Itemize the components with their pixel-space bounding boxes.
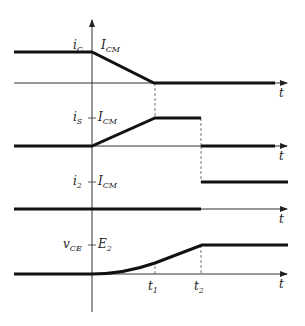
svg-text:ICM: ICM [97,174,118,190]
svg-text:iC: iC [73,38,83,54]
plot-ic: iC ICM t [14,38,287,100]
svg-text:iS: iS [73,110,83,126]
t2-label: t2 [194,279,204,295]
svg-text:E2: E2 [97,237,112,253]
svg-text:t: t [279,149,284,163]
svg-text:vCE: vCE [63,237,82,253]
svg-text:i2: i2 [73,174,82,190]
t1-label: t1 [148,279,158,295]
ic-waveform [14,52,275,83]
waveform-diagram: iC ICM t iS ICM t i2 ICM t vCE E2 t t1 t… [0,0,305,326]
plot-vce: vCE E2 t t1 t2 [14,237,288,295]
t-axis-label: t [279,86,284,100]
svg-text:ICM: ICM [97,110,118,126]
svg-text:t: t [279,277,284,291]
plot-is: iS ICM t [14,110,287,163]
svg-text:ICM: ICM [100,38,121,54]
vce-waveform [14,245,288,274]
svg-text:t: t [279,212,284,226]
plot-i2: i2 ICM t [14,174,288,226]
